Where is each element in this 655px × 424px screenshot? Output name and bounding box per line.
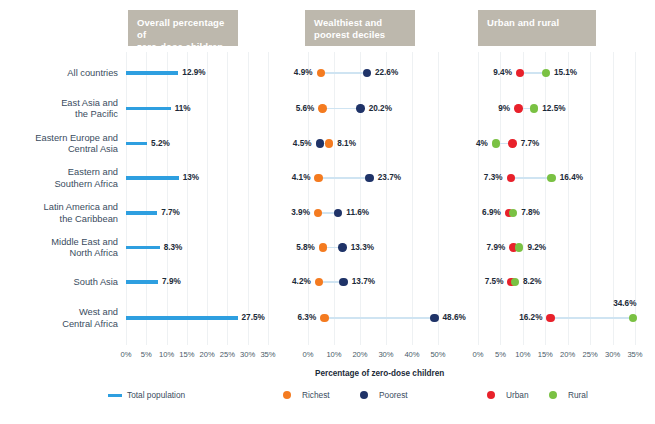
bar-total-population [126,71,178,74]
bar-value-label: 13% [183,173,199,182]
gridline [308,52,309,345]
chart-root: Overall percentage of zero-dose children… [0,0,655,424]
bar-total-population [126,211,157,214]
point-value-label-right: 12.5% [542,104,565,113]
gridline [146,52,147,345]
dot-poorest [363,69,371,77]
legend-label-poorest[interactable]: Poorest [379,390,408,400]
dot-rural [492,139,500,147]
gridline [568,52,569,345]
panel-header-2: Wealthiest and poorest deciles [305,10,415,46]
x-tick-label: 35% [617,350,653,359]
point-value-label-right: 20.2% [369,104,392,113]
dot-poorest [334,209,342,217]
point-value-label-left: 9% [468,104,510,113]
x-axis-title: Percentage of zero-dose children [315,369,444,378]
gridline [500,52,501,345]
legend-label-total-population[interactable]: Total population [127,390,185,400]
point-value-label-right: 13.3% [351,243,374,252]
dot-poorest [339,278,347,286]
gridline [438,52,439,345]
row-label-6: South Asia [0,277,118,289]
point-value-label-right: 48.6% [443,313,466,322]
point-value-label-left: 4.5% [270,139,312,148]
gridline [248,52,249,345]
point-value-label-right: 9.2% [527,243,546,252]
bar-total-population [126,176,179,179]
dot-richest [325,139,333,147]
bar-value-label: 7.9% [162,277,181,286]
bar-total-population [126,142,147,145]
legend-label-richest[interactable]: Richest [302,390,330,400]
dot-richest [318,104,326,112]
gridline [360,52,361,345]
point-value-label-right: 16.4% [560,173,583,182]
bar-total-population [126,316,238,319]
row-label-0: All countries [0,68,118,80]
dot-rural [629,314,637,322]
gridline [478,52,479,345]
connector-line [511,177,552,178]
row-label-2: Eastern Europe and Central Asia [0,133,118,156]
point-value-label-right: 13.7% [352,277,375,286]
dot-urban [508,139,516,147]
gridline [386,52,387,345]
gridline [227,52,228,345]
legend-label-urban[interactable]: Urban [506,390,529,400]
point-value-label-right: 8.1% [337,139,356,148]
x-tick-label: 50% [420,350,456,359]
legend-label-rural[interactable]: Rural [568,390,588,400]
dot-richest [319,243,327,251]
connector-line [324,317,434,318]
point-value-label-right: 8.2% [523,277,542,286]
dot-richest [314,209,322,217]
point-value-label-left: 7.3% [461,173,503,182]
bar-value-label: 27.5% [242,313,265,322]
connector-line [323,108,361,109]
gridline [334,52,335,345]
bar-value-label: 8.3% [164,243,183,252]
row-label-3: Eastern and Southern Africa [0,167,118,190]
gridline [523,52,524,345]
dot-rural [542,69,550,77]
point-value-label-left: 5.6% [272,104,314,113]
point-value-label-right: 7.8% [521,208,540,217]
dot-richest [317,69,325,77]
bar-value-label: 5.2% [151,139,170,148]
gridline [412,52,413,345]
row-label-4: Latin America and the Caribbean [0,202,118,225]
legend-swatch-richest [283,391,291,399]
row-label-7: West and Central Africa [0,307,118,330]
connector-line [551,317,634,318]
panel-header-3: Urban and rural [478,10,596,46]
row-label-1: East Asia and the Pacific [0,98,118,121]
point-value-label-left: 3.9% [268,208,310,217]
dot-urban [546,314,554,322]
point-value-label-right: 23.7% [378,173,401,182]
point-value-label-right: 11.6% [346,208,369,217]
point-value-label-right: 15.1% [554,68,577,77]
dot-richest [315,278,323,286]
dot-rural [547,174,555,182]
point-value-label-left: 4% [446,139,488,148]
gridline [545,52,546,345]
dot-poorest [356,104,364,112]
connector-line [321,72,367,73]
connector-line [319,177,370,178]
dot-poorest [338,243,346,251]
point-value-label-right: 34.6% [613,299,636,308]
dot-poorest [430,314,438,322]
dot-urban [507,174,515,182]
bar-total-population [126,107,171,110]
bar-total-population [126,280,158,283]
bar-value-label: 7.7% [161,208,180,217]
legend-swatch-rural [549,391,557,399]
gridline [126,52,127,345]
point-value-label-left: 4.1% [268,173,310,182]
point-value-label-left: 16.2% [500,313,542,322]
point-value-label-right: 7.7% [521,139,540,148]
dot-richest [320,314,328,322]
bar-value-label: 11% [175,104,191,113]
gridline [268,52,269,345]
dot-poorest [316,139,324,147]
